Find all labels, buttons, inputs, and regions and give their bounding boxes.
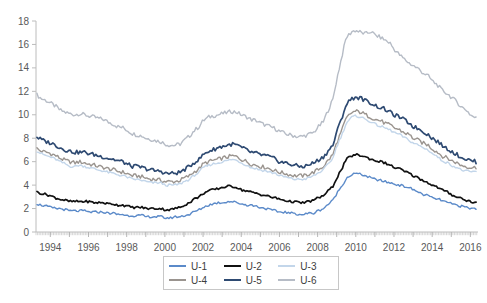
- chart-legend: U-1 U-2 U-3 U-4 U-5 U-6: [163, 256, 339, 290]
- legend-swatch-u-5: [224, 279, 241, 281]
- legend-entry-u-6[interactable]: U-6: [278, 275, 333, 286]
- legend-entry-u-1[interactable]: U-1: [169, 261, 224, 272]
- x-tick-label: 2008: [306, 242, 329, 253]
- legend-label-u-4: U-4: [191, 275, 207, 286]
- y-tick-label: 10: [18, 109, 30, 120]
- x-tick-label: 1998: [116, 242, 139, 253]
- x-tick-label: 2012: [383, 242, 406, 253]
- series-line-u-6: [37, 31, 476, 147]
- y-tick-label: 8: [23, 133, 29, 144]
- legend-label-u-6: U-6: [300, 275, 316, 286]
- tick-labels-layer: 0246810121416181994199619982000200220042…: [18, 16, 482, 254]
- legend-entry-u-4[interactable]: U-4: [169, 275, 224, 286]
- x-tick-label: 2010: [345, 242, 368, 253]
- legend-label-u-1: U-1: [191, 261, 207, 272]
- legend-label-u-2: U-2: [246, 261, 262, 272]
- x-tick-label: 2014: [421, 242, 444, 253]
- legend-row-top: U-1 U-2 U-3: [169, 259, 333, 273]
- legend-entry-u-5[interactable]: U-5: [224, 275, 279, 286]
- series-line-u-2: [37, 154, 476, 211]
- legend-label-u-5: U-5: [246, 275, 262, 286]
- x-tick-label: 2000: [154, 242, 177, 253]
- x-tick-label: 2016: [459, 242, 482, 253]
- legend-label-u-3: U-3: [300, 261, 316, 272]
- y-tick-label: 14: [18, 62, 30, 73]
- legend-row-bottom: U-4 U-5 U-6: [169, 273, 333, 287]
- y-tick-label: 0: [23, 227, 29, 238]
- x-tick-label: 1996: [77, 242, 100, 253]
- y-tick-label: 18: [18, 16, 30, 27]
- legend-swatch-u-2: [224, 265, 241, 267]
- series-line-u-1: [37, 173, 476, 218]
- legend-swatch-u-3: [278, 265, 295, 267]
- series-line-u-3: [37, 115, 476, 186]
- legend-swatch-u-1: [169, 265, 186, 267]
- axes-layer: [32, 21, 478, 237]
- legend-entry-u-2[interactable]: U-2: [224, 261, 279, 272]
- x-tick-label: 2004: [230, 242, 253, 253]
- x-tick-label: 1994: [39, 242, 62, 253]
- legend-swatch-u-4: [169, 279, 186, 281]
- y-tick-label: 12: [18, 86, 30, 97]
- x-tick-label: 2002: [192, 242, 215, 253]
- x-tick-label: 2006: [268, 242, 291, 253]
- y-tick-label: 2: [23, 203, 29, 214]
- legend-entry-u-3[interactable]: U-3: [278, 261, 333, 272]
- y-tick-label: 4: [23, 180, 29, 191]
- y-tick-label: 6: [23, 156, 29, 167]
- series-layer: [37, 31, 476, 219]
- y-tick-label: 16: [18, 39, 30, 50]
- chart-container: 0246810121416181994199619982000200220042…: [0, 0, 487, 303]
- legend-swatch-u-6: [278, 279, 295, 281]
